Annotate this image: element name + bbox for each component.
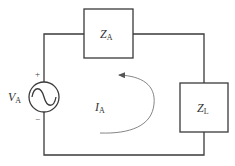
wire-top-right — [133, 34, 204, 83]
ia-label: IA — [94, 100, 105, 115]
wire-left-top — [44, 34, 84, 82]
circuit-svg: ZA ZL + − VA IA — [0, 0, 235, 166]
impedance-zl: ZL — [180, 83, 228, 132]
plus-sign: + — [35, 69, 40, 79]
va-label: VA — [8, 90, 21, 105]
circuit-diagram: ZA ZL + − VA IA — [0, 0, 235, 166]
impedance-za: ZA — [84, 9, 133, 58]
ac-voltage-source: + − VA — [8, 69, 59, 124]
minus-sign: − — [35, 114, 40, 124]
loop-arrow-icon — [100, 75, 154, 133]
loop-current: IA — [94, 75, 154, 133]
